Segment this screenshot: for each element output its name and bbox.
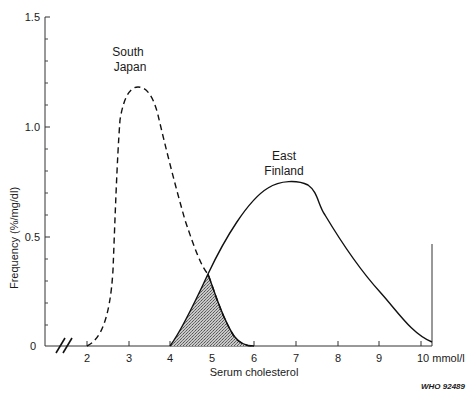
x-tick-5: 5: [209, 352, 215, 364]
y-axis: 1.5 1.0 0.5 0 Frequency (%/mg/dl): [8, 11, 50, 352]
x-tick-8: 8: [335, 352, 341, 364]
y-axis-title: Frequency (%/mg/dl): [8, 187, 20, 289]
series-south-japan: [87, 87, 254, 346]
x-tick-3: 3: [126, 352, 132, 364]
y-tick-1-0: 1.0: [25, 121, 40, 133]
x-axis: 2 3 4 5 6 7 8 9 10 mmol/l Serum choleste…: [45, 338, 465, 378]
x-tick-2: 2: [84, 352, 90, 364]
label-east-finland-2: Finland: [264, 164, 303, 178]
y-tick-0: 0: [30, 340, 36, 352]
x-tick-7: 7: [293, 352, 299, 364]
y-tick-1-5: 1.5: [25, 11, 40, 23]
figure-credit: WHO 92489: [421, 382, 466, 391]
x-tick-4: 4: [167, 352, 173, 364]
x-tick-10: 10 mmol/l: [417, 352, 465, 364]
chart: 1.5 1.0 0.5 0 Frequency (%/mg/dl) 2 3 4 …: [0, 0, 473, 398]
label-south-japan-2: Japan: [114, 60, 147, 74]
x-tick-6: 6: [251, 352, 257, 364]
y-tick-0-5: 0.5: [25, 231, 40, 243]
label-south-japan-1: South: [112, 45, 143, 59]
x-tick-9: 9: [376, 352, 382, 364]
label-east-finland-1: East: [272, 149, 297, 163]
x-axis-title: Serum cholesterol: [210, 366, 299, 378]
